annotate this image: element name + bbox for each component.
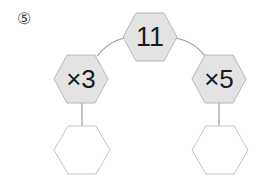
right-result-value[interactable] xyxy=(192,126,248,174)
connector-root-left xyxy=(97,38,124,56)
right-op-value: ×5 xyxy=(192,55,246,103)
left-op-value: ×3 xyxy=(54,55,108,103)
left-result-value[interactable] xyxy=(54,126,110,174)
root-value: 11 xyxy=(123,13,177,61)
problem-number: ⑤ xyxy=(15,9,33,27)
connector-root-right xyxy=(176,38,205,56)
